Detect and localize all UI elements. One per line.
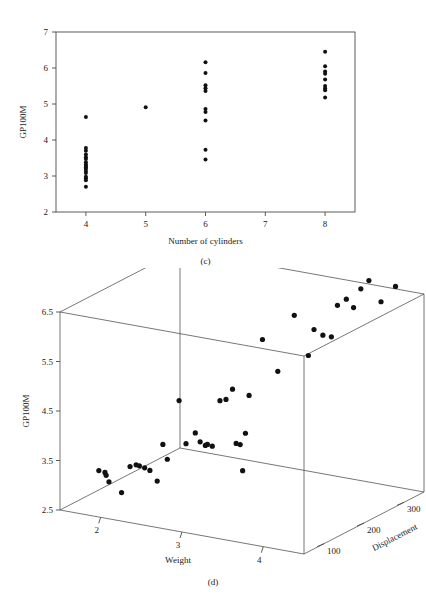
panel-d-points <box>96 278 398 495</box>
data-point <box>323 64 327 68</box>
panel-c-ytick-label: 5 <box>44 99 49 109</box>
data-point <box>323 78 327 82</box>
data-point <box>358 286 363 291</box>
data-point <box>84 171 88 175</box>
data-point <box>238 442 243 447</box>
data-point <box>311 327 316 332</box>
data-point <box>320 333 325 338</box>
data-point <box>243 431 248 436</box>
data-point <box>204 110 208 114</box>
data-point <box>204 157 208 161</box>
data-point <box>127 464 132 469</box>
data-point <box>275 369 280 374</box>
data-point <box>84 149 88 153</box>
data-point <box>84 178 88 182</box>
panel-d-ytick-label: 100 <box>327 546 341 556</box>
panel-d-zaxis-title: GP100M <box>21 394 31 427</box>
panel-c-points <box>84 50 327 189</box>
data-point <box>104 473 109 478</box>
data-point <box>106 479 111 484</box>
data-point <box>204 71 208 75</box>
figure-container: 45678234567Number of cylindersGP100M(c) … <box>0 0 426 601</box>
panel-c-xtick-label: 6 <box>203 219 208 229</box>
panel-c-chart: 45678234567Number of cylindersGP100M(c) <box>0 0 426 268</box>
box-edge-top-back <box>180 268 424 294</box>
data-point <box>96 468 101 473</box>
panel-d-ztick-label: 2.5 <box>42 505 54 515</box>
panel-c-ytick-label: 4 <box>44 135 49 145</box>
panel-d-ytick <box>397 502 404 505</box>
panel-d-ytick-label: 300 <box>407 504 421 514</box>
panel-d-xtick-label: 4 <box>257 555 262 565</box>
data-point <box>84 185 88 189</box>
data-point <box>378 299 383 304</box>
data-point <box>205 442 210 447</box>
data-point <box>344 297 349 302</box>
panel-d-ztick-label: 6.5 <box>42 307 54 317</box>
panel-d-xaxis-title: Weight <box>165 555 191 565</box>
data-point <box>84 115 88 119</box>
panel-d-ytick <box>357 523 364 526</box>
data-point <box>165 457 170 462</box>
panel-d-ztick-label: 3.5 <box>42 456 54 466</box>
box-edge-top-left-depth <box>60 268 180 312</box>
panel-c-xtick-label: 7 <box>263 219 268 229</box>
data-point <box>230 387 235 392</box>
data-point <box>292 313 297 318</box>
panel-d-xtick-label: 3 <box>176 540 181 550</box>
panel-c-yaxis-title: GP100M <box>18 105 28 138</box>
data-point <box>137 463 142 468</box>
panel-c-ytick-label: 2 <box>44 207 49 217</box>
data-point <box>204 60 208 64</box>
panel-c-ytick-label: 7 <box>44 27 49 37</box>
data-point <box>155 479 160 484</box>
data-point <box>119 490 124 495</box>
data-point <box>323 88 327 92</box>
data-point <box>323 72 327 76</box>
panel-d-xtick <box>99 517 101 523</box>
data-point <box>223 397 228 402</box>
data-point <box>204 119 208 123</box>
data-point <box>240 468 245 473</box>
panel-c-ytick-label: 3 <box>44 171 49 181</box>
data-point <box>246 393 251 398</box>
box-edge-top-right-depth <box>304 294 424 356</box>
panel-d-ytick <box>317 544 324 547</box>
data-point <box>393 284 398 289</box>
panel-c-caption: (c) <box>201 256 211 266</box>
panel-c-xaxis-title: Number of cylinders <box>168 236 243 246</box>
box-edge-bottom-back <box>180 448 424 492</box>
panel-c-xtick-label: 4 <box>84 219 89 229</box>
panel-d-xtick-label: 2 <box>94 525 99 535</box>
panel-c-xtick-label: 5 <box>143 219 148 229</box>
data-point <box>147 468 152 473</box>
panel-d-ytick-label: 200 <box>367 525 381 535</box>
data-point <box>335 303 340 308</box>
data-point <box>329 334 334 339</box>
box-edge-bottom-left-depth <box>60 448 180 510</box>
data-point <box>160 442 165 447</box>
data-point <box>260 337 265 342</box>
data-point <box>323 96 327 100</box>
data-point <box>144 105 148 109</box>
data-point <box>210 444 215 449</box>
data-point <box>217 398 222 403</box>
panel-c-ytick-label: 6 <box>44 63 49 73</box>
data-point <box>204 89 208 93</box>
panel-d-ztick-label: 4.5 <box>42 406 54 416</box>
data-point <box>193 430 198 435</box>
data-point <box>351 305 356 310</box>
panel-d-xtick <box>180 532 182 538</box>
panel-d-caption: (d) <box>208 577 219 587</box>
data-point <box>176 398 181 403</box>
panel-d-ztick-label: 5.5 <box>42 357 54 367</box>
panel-c-xtick-label: 8 <box>323 219 328 229</box>
data-point <box>323 50 327 54</box>
panel-d-chart: 2.53.54.55.56.5GP100M234Weight100200300D… <box>0 268 426 601</box>
data-point <box>183 441 188 446</box>
data-point <box>204 148 208 152</box>
data-point <box>306 353 311 358</box>
data-point <box>366 278 371 283</box>
box-edge-top-front <box>60 312 304 356</box>
panel-d-xtick <box>261 547 263 553</box>
